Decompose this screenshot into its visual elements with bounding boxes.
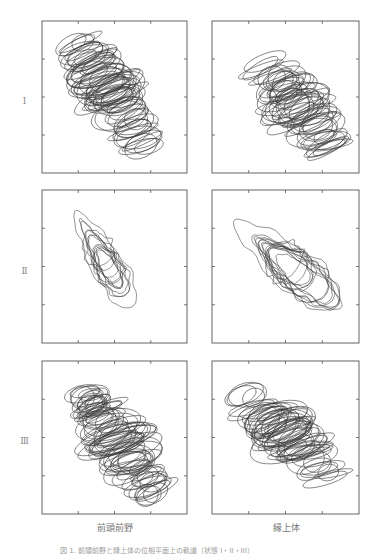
figure-grid	[0, 0, 379, 555]
trajectory-group	[222, 378, 354, 491]
trajectory-loop	[137, 469, 167, 495]
trajectory-group	[74, 211, 137, 308]
row-label-2: II	[18, 266, 30, 276]
plot-frame	[42, 21, 187, 173]
panel-I-1	[42, 21, 187, 173]
plot-frame	[212, 190, 359, 343]
trajectory-loop	[302, 468, 349, 492]
trajectory-group	[62, 381, 180, 511]
column-label-left: 前頭前野	[75, 521, 155, 534]
panel-III-2	[212, 361, 359, 514]
trajectory-blob	[234, 219, 340, 310]
panel-II-1	[42, 190, 187, 343]
panel-III-1	[42, 361, 187, 514]
trajectory-loop	[222, 381, 259, 410]
trajectory-loop	[267, 422, 324, 463]
trajectory-group	[52, 28, 165, 164]
trajectory-group	[234, 219, 343, 310]
panel-I-2	[212, 21, 359, 173]
row-label-3: III	[18, 436, 30, 446]
trajectory-loop	[69, 385, 101, 400]
trajectory-group	[237, 46, 354, 164]
figure-caption: 図 1. 前頭前野と縁上体の位相平面上の軌道（状態 I・II・III）	[60, 545, 320, 555]
column-label-right: 縁上体	[246, 521, 326, 534]
trajectory-loop	[316, 462, 341, 483]
row-label-1: I	[18, 96, 30, 106]
trajectory-loop	[313, 467, 354, 481]
panel-II-2	[212, 190, 359, 343]
plot-frame	[42, 190, 187, 343]
trajectory-blob	[266, 244, 329, 302]
